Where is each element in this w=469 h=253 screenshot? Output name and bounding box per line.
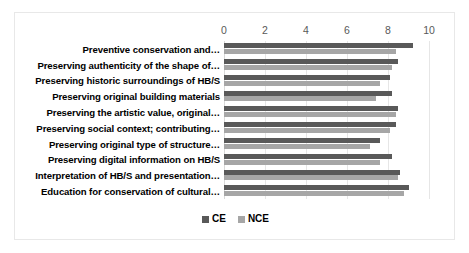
- bar-nce[interactable]: [224, 81, 380, 86]
- bar-ce[interactable]: [224, 170, 400, 175]
- category-label: Preventive conservation and…: [83, 43, 220, 54]
- bar-nce[interactable]: [224, 128, 390, 133]
- legend-label: NCE: [248, 214, 269, 224]
- bar-ce[interactable]: [224, 43, 413, 48]
- bar-group: [224, 73, 456, 89]
- category-label: Preserving original type of structure…: [49, 138, 220, 149]
- x-tick-label: 10: [423, 23, 435, 37]
- legend-swatch-icon: [238, 216, 245, 223]
- bar-ce[interactable]: [224, 138, 380, 143]
- chart-row: Preserving authenticity of the shape of…: [15, 57, 456, 73]
- chart-row: Interpretation of HB/S and presentation…: [15, 167, 456, 183]
- chart-container: 0246810 Preventive conservation and…Pres…: [14, 12, 455, 240]
- category-label: Preserving digital information on HB/S: [48, 154, 220, 165]
- bar-nce[interactable]: [224, 144, 370, 149]
- bar-group: [224, 167, 456, 183]
- category-label: Preserving original building materials: [52, 91, 220, 102]
- chart-row: Preventive conservation and…: [15, 41, 456, 57]
- bar-group: [224, 183, 456, 199]
- bar-nce[interactable]: [224, 112, 396, 117]
- bar-nce[interactable]: [224, 160, 380, 165]
- chart-row: Preserving the artistic value, original…: [15, 104, 456, 120]
- category-label: Education for conservation of cultural…: [41, 186, 220, 197]
- x-tick-label: 4: [303, 23, 309, 37]
- bar-ce[interactable]: [224, 154, 392, 159]
- bar-ce[interactable]: [224, 106, 398, 111]
- x-tick-label: 6: [344, 23, 350, 37]
- category-label: Preserving authenticity of the shape of…: [37, 59, 220, 70]
- bar-nce[interactable]: [224, 191, 404, 196]
- bar-ce[interactable]: [224, 185, 409, 190]
- chart-row: Education for conservation of cultural…: [15, 183, 456, 199]
- bar-group: [224, 104, 456, 120]
- x-tick-label: 0: [221, 23, 227, 37]
- category-label: Interpretation of HB/S and presentation…: [35, 170, 220, 181]
- category-label: Preserving social context; contributing…: [36, 122, 220, 133]
- bar-group: [224, 88, 456, 104]
- bar-nce[interactable]: [224, 175, 398, 180]
- chart-row: Preserving original building materials: [15, 88, 456, 104]
- category-label: Preserving the artistic value, original…: [46, 107, 220, 118]
- category-rows: Preventive conservation and…Preserving a…: [15, 41, 456, 199]
- bar-group: [224, 136, 456, 152]
- x-tick-label: 8: [385, 23, 391, 37]
- legend-label: CE: [212, 214, 226, 224]
- bar-group: [224, 120, 456, 136]
- bar-group: [224, 57, 456, 73]
- category-label: Preserving historic surroundings of HB/S: [35, 75, 220, 86]
- legend-item-ce[interactable]: CE: [202, 214, 226, 224]
- legend-swatch-icon: [202, 216, 209, 223]
- chart-row: Preserving social context; contributing…: [15, 120, 456, 136]
- chart-legend: CENCE: [15, 209, 456, 229]
- bar-nce[interactable]: [224, 49, 396, 54]
- bar-ce[interactable]: [224, 59, 398, 64]
- bar-nce[interactable]: [224, 65, 392, 70]
- x-tick-label: 2: [262, 23, 268, 37]
- bar-ce[interactable]: [224, 91, 392, 96]
- bar-ce[interactable]: [224, 122, 396, 127]
- chart-row: Preserving digital information on HB/S: [15, 152, 456, 168]
- bar-ce[interactable]: [224, 75, 390, 80]
- bar-nce[interactable]: [224, 96, 376, 101]
- bar-group: [224, 152, 456, 168]
- legend-item-nce[interactable]: NCE: [238, 214, 269, 224]
- x-axis: 0246810: [15, 23, 456, 41]
- chart-row: Preserving original type of structure…: [15, 136, 456, 152]
- chart-row: Preserving historic surroundings of HB/S: [15, 73, 456, 89]
- bar-group: [224, 41, 456, 57]
